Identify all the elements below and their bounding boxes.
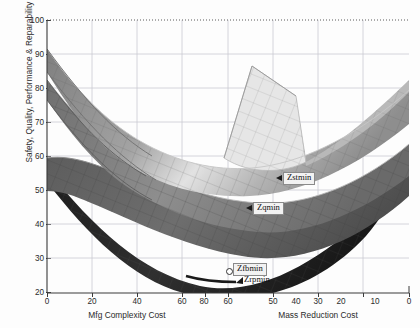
plot-canvas — [0, 0, 420, 328]
zfbmin-marker-dot — [226, 268, 233, 275]
chart-figure: Safety, Quality, Performance & Reparabil… — [0, 0, 420, 328]
x-tick-label-mfg: 20 — [87, 297, 96, 306]
x-tick-label-mfg: 0 — [45, 297, 50, 306]
x-tick-label-mass: 10 — [370, 297, 379, 306]
x-tick-label-mass: 60 — [223, 297, 232, 306]
x-tick-label-mass: 30 — [313, 297, 322, 306]
x-axis-title-mfg: Mfg Complexity Cost — [88, 310, 165, 320]
x-tick-mark — [363, 293, 364, 297]
x-tick-label-mfg: 80 — [199, 297, 208, 306]
x-tick-label-mass: 40 — [291, 297, 300, 306]
x-tick-label-mfg: 60 — [177, 297, 186, 306]
x-axis-title-mass: Mass Reduction Cost — [278, 310, 358, 320]
callout-zqmin: Zqmin — [253, 202, 284, 215]
callout-zstmin: Zstmin — [283, 172, 315, 185]
callout-zrpmin: Zrpmin — [244, 275, 270, 285]
x-tick-label-mass: 20 — [336, 297, 345, 306]
x-tick-label-mfg: 40 — [132, 297, 141, 306]
x-tick-label-mass: 0 — [407, 297, 412, 306]
x-tick-label-mass: 50 — [268, 297, 277, 306]
